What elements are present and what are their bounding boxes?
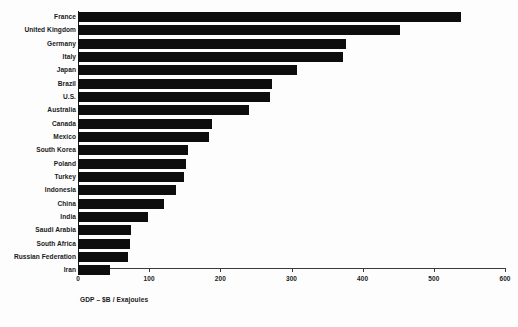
bar xyxy=(78,145,188,155)
category-label: Saudi Arabia xyxy=(2,226,76,233)
bar-row xyxy=(78,105,505,115)
x-axis-tick-label: 500 xyxy=(428,275,439,282)
bar xyxy=(78,265,110,275)
bar-row xyxy=(78,132,505,142)
category-label: Poland xyxy=(2,160,76,167)
bar xyxy=(78,225,131,235)
category-label: Iran xyxy=(2,266,76,273)
bar-row xyxy=(78,12,505,22)
bar-row xyxy=(78,239,505,249)
category-label: Italy xyxy=(2,53,76,60)
bar xyxy=(78,132,209,142)
bar-row xyxy=(78,92,505,102)
bar-row xyxy=(78,159,505,169)
x-axis-tick xyxy=(220,268,221,272)
category-label: Canada xyxy=(2,120,76,127)
bar xyxy=(78,39,346,49)
category-label: Australia xyxy=(2,106,76,113)
bar xyxy=(78,212,148,222)
bar-row xyxy=(78,252,505,262)
category-label: South Africa xyxy=(2,240,76,247)
bar xyxy=(78,25,400,35)
category-label: U.S. xyxy=(2,93,76,100)
x-axis-tick xyxy=(363,268,364,272)
x-axis-tick-label: 300 xyxy=(286,275,297,282)
bar-row xyxy=(78,65,505,75)
bar-row xyxy=(78,25,505,35)
bar xyxy=(78,105,249,115)
x-axis-tick-label: 600 xyxy=(499,275,510,282)
bar xyxy=(78,239,130,249)
bar xyxy=(78,52,343,62)
x-axis-tick xyxy=(434,268,435,272)
category-label: Indonesia xyxy=(2,186,76,193)
category-label: India xyxy=(2,213,76,220)
bar-row xyxy=(78,225,505,235)
bar xyxy=(78,185,176,195)
plot-area xyxy=(78,11,505,268)
bar-row xyxy=(78,199,505,209)
bar xyxy=(78,172,184,182)
x-axis-tick xyxy=(149,268,150,272)
bar xyxy=(78,119,212,129)
bar xyxy=(78,159,186,169)
bar-row xyxy=(78,145,505,155)
bar xyxy=(78,79,272,89)
category-label: United Kingdom xyxy=(2,26,76,33)
bar xyxy=(78,12,461,22)
bar-row xyxy=(78,185,505,195)
category-axis-labels: FranceUnited KingdomGermanyItalyJapanBra… xyxy=(0,0,76,327)
x-axis-title: GDP – $B / Exajoules xyxy=(80,296,148,303)
x-axis-tick-label: 0 xyxy=(76,275,80,282)
bar xyxy=(78,65,297,75)
category-label: Germany xyxy=(2,40,76,47)
category-label: Turkey xyxy=(2,173,76,180)
bar xyxy=(78,252,128,262)
x-axis-tick xyxy=(292,268,293,272)
bar-row xyxy=(78,79,505,89)
category-label: Brazil xyxy=(2,80,76,87)
category-label: Japan xyxy=(2,66,76,73)
bar-row xyxy=(78,172,505,182)
bar xyxy=(78,92,270,102)
category-label: Russian Federation xyxy=(2,253,76,260)
x-axis-tick xyxy=(505,268,506,272)
category-label: South Korea xyxy=(2,146,76,153)
bar-row xyxy=(78,39,505,49)
bar-chart-figure: FranceUnited KingdomGermanyItalyJapanBra… xyxy=(0,0,518,327)
category-label: Mexico xyxy=(2,133,76,140)
bar-row xyxy=(78,212,505,222)
category-label: France xyxy=(2,13,76,20)
x-axis-tick-label: 100 xyxy=(144,275,155,282)
category-label: China xyxy=(2,200,76,207)
bar xyxy=(78,199,164,209)
x-axis-tick-label: 200 xyxy=(215,275,226,282)
bar-row xyxy=(78,119,505,129)
x-axis-tick-label: 400 xyxy=(357,275,368,282)
bar-row xyxy=(78,52,505,62)
